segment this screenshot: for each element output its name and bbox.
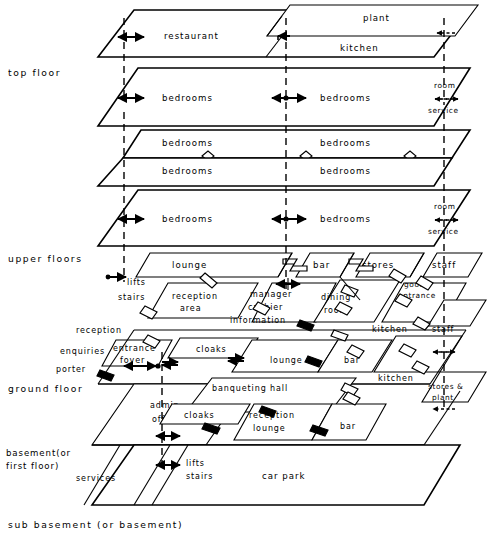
level-upper-floor-4: bedrooms bedrooms room service bbox=[98, 190, 470, 246]
label-stores-plant-1: stores & bbox=[428, 382, 463, 391]
level-lower-ground: admin offices banqueting hall cloaks rec… bbox=[92, 378, 460, 445]
label-reception-area-1: reception bbox=[172, 292, 218, 301]
label-lounge-upper: lounge bbox=[172, 260, 207, 270]
label-bar-upper: bar bbox=[313, 260, 330, 270]
label-stores-plant-2: plant bbox=[432, 393, 454, 402]
zone-lounge-upper bbox=[136, 253, 292, 277]
hotel-zoning-diagram: restaurant plant kitchen bedrooms bedroo… bbox=[0, 0, 489, 555]
label-bedrooms-1b: bedrooms bbox=[320, 93, 371, 103]
side-label-sub-basement: sub basement (or basement) bbox=[8, 519, 183, 530]
label-restaurant: restaurant bbox=[164, 31, 219, 41]
flow-arrow-first-lifts bbox=[106, 275, 126, 280]
side-label-top-floor: top floor bbox=[8, 67, 61, 78]
label-information: information bbox=[230, 316, 286, 325]
level-basement: services lifts stairs car park bbox=[76, 445, 460, 505]
label-room-service-4a: room bbox=[434, 202, 456, 211]
side-label-basement-2: first floor) bbox=[6, 461, 59, 471]
label-lifts-basement: lifts bbox=[186, 459, 205, 468]
label-porter: porter bbox=[56, 365, 86, 374]
level-upper-floor-2: bedrooms bedrooms bbox=[123, 130, 470, 158]
diagram-canvas: restaurant plant kitchen bedrooms bedroo… bbox=[0, 0, 489, 555]
label-lounge-ground: lounge bbox=[270, 356, 303, 365]
label-services: services bbox=[76, 474, 116, 483]
label-room-service-1a: room bbox=[434, 81, 456, 90]
label-stairs-basement: stairs bbox=[186, 472, 213, 481]
level-upper-floor-3: bedrooms bedrooms bbox=[98, 158, 452, 186]
label-bedrooms-3a: bedrooms bbox=[162, 166, 213, 176]
label-stairs-upper: stairs bbox=[118, 293, 145, 302]
label-lifts-upper: lifts bbox=[127, 278, 146, 287]
label-reception-area-2: area bbox=[180, 304, 201, 313]
side-label-basement-1: basement(or bbox=[6, 448, 71, 458]
level-upper-floor-1: bedrooms bedrooms room service bbox=[98, 68, 470, 126]
label-bedrooms-2a: bedrooms bbox=[162, 138, 213, 148]
label-car-park: car park bbox=[262, 471, 306, 481]
label-reception-ground: reception bbox=[76, 326, 122, 335]
slab-bedroom-3 bbox=[98, 158, 452, 186]
label-plant: plant bbox=[363, 13, 390, 23]
label-bedrooms-3b: bedrooms bbox=[320, 166, 371, 176]
label-manager: manager bbox=[250, 290, 292, 299]
label-reception-lounge-2: lounge bbox=[253, 424, 286, 433]
label-bar-lower: bar bbox=[340, 422, 356, 431]
side-label-ground-floor: ground floor bbox=[8, 383, 83, 394]
label-cloaks-lower: cloaks bbox=[184, 411, 215, 420]
label-banqueting: banqueting hall bbox=[212, 384, 288, 393]
level-top-floor: restaurant plant kitchen bbox=[98, 5, 478, 57]
label-bedrooms-4b: bedrooms bbox=[320, 214, 371, 224]
label-enquiries: enquiries bbox=[60, 347, 105, 356]
label-kitchen-top: kitchen bbox=[340, 43, 379, 53]
label-cloaks-ground: cloaks bbox=[196, 345, 227, 354]
label-bedrooms-4a: bedrooms bbox=[162, 214, 213, 224]
side-label-upper-floors: upper floors bbox=[8, 253, 83, 264]
label-kitchen-ground: kitchen bbox=[378, 374, 414, 383]
label-bedrooms-1a: bedrooms bbox=[162, 93, 213, 103]
label-entrance-2: foyer bbox=[120, 356, 145, 365]
level-first-floor: lounge bar stores staff reception area m… bbox=[106, 253, 486, 334]
label-bedrooms-2b: bedrooms bbox=[320, 138, 371, 148]
